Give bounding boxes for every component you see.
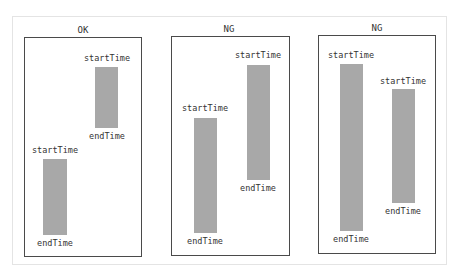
start-time-label: startTime — [235, 51, 281, 60]
end-time-label: endTime — [187, 237, 223, 246]
end-time-label: endTime — [37, 239, 73, 248]
interval-bar — [194, 118, 217, 233]
panel-title-ok: OK — [78, 25, 89, 35]
start-time-label: startTime — [182, 104, 228, 113]
panel-title-ng-1: NG — [224, 24, 235, 34]
panel-ng-1 — [171, 36, 290, 256]
panel-title-ng-2: NG — [372, 23, 383, 33]
interval-bar — [95, 67, 118, 128]
end-time-label: endTime — [240, 184, 276, 193]
interval-bar — [392, 89, 415, 203]
end-time-label: endTime — [385, 207, 421, 216]
interval-bar — [340, 64, 363, 231]
start-time-label: startTime — [328, 51, 374, 60]
end-time-label: endTime — [89, 132, 125, 141]
panel-ng-2 — [318, 35, 436, 254]
end-time-label: endTime — [333, 235, 369, 244]
start-time-label: startTime — [84, 54, 130, 63]
interval-bar — [247, 65, 270, 180]
interval-bar — [43, 159, 67, 235]
start-time-label: startTime — [32, 146, 78, 155]
start-time-label: startTime — [380, 77, 426, 86]
